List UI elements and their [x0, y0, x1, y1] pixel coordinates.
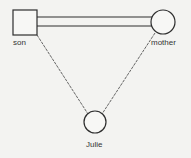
node-son-square	[13, 10, 37, 35]
label-julie: Julie	[86, 141, 102, 149]
label-son: son	[13, 39, 26, 47]
node-mother-circle	[151, 10, 175, 34]
edge-son-mother	[37, 17, 152, 26]
edge-mother-julie	[102, 33, 155, 114]
label-mother: mother	[151, 39, 176, 47]
node-julie-circle	[84, 111, 106, 133]
genogram-diagram	[0, 0, 191, 158]
edge-son-julie	[37, 35, 88, 114]
